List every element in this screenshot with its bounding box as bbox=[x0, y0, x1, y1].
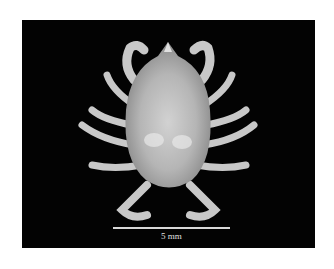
scale-bar bbox=[113, 227, 230, 229]
specimen-photo-panel: 5 mm bbox=[22, 20, 315, 248]
crab-specimen-image bbox=[22, 20, 315, 248]
scale-bar-label: 5 mm bbox=[113, 231, 230, 241]
